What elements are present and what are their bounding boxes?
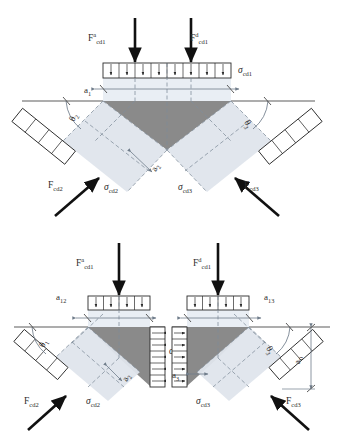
label-sigma-cd3-br: σcd3 bbox=[196, 396, 210, 408]
bottom-left-diagram: Facd1 a12 θ1 σcd0 a2 Fcd2 σcd2 bbox=[14, 243, 183, 430]
label-sigma-cd3: σcd3 bbox=[178, 182, 192, 194]
top-diagram: Facd1 Fdcd1 σcd1 a1 θ2 θ3 a2 Fcd2 Fcd3 σ… bbox=[12, 18, 322, 216]
label-force-diag-br: Fcd3 bbox=[286, 396, 301, 408]
stress-bar-interface-bl bbox=[150, 327, 165, 387]
label-force-cd3: Fcd3 bbox=[244, 180, 259, 192]
label-force-left-top: Facd1 bbox=[88, 31, 106, 45]
bottom-right-diagram: Fdcd1 a13 θ3 a0 a3 Fcd3 σcd3 bbox=[172, 243, 330, 430]
label-sigma-cd2: σcd2 bbox=[104, 182, 118, 194]
label-sigma-cd2-bl: σcd2 bbox=[86, 396, 100, 408]
stress-bar-right bbox=[259, 108, 323, 164]
angle-arc-theta3-br bbox=[276, 327, 290, 354]
label-force-right-top: Fdcd1 bbox=[190, 31, 208, 45]
label-sigma-cd1: σcd1 bbox=[238, 65, 252, 77]
label-a13: a13 bbox=[264, 292, 274, 304]
diagram-svg: Facd1 Fdcd1 σcd1 a1 θ2 θ3 a2 Fcd2 Fcd3 σ… bbox=[0, 0, 337, 435]
stress-bar-left bbox=[12, 108, 76, 164]
figure-canvas: Facd1 Fdcd1 σcd1 a1 θ2 θ3 a2 Fcd2 Fcd3 σ… bbox=[0, 0, 337, 435]
label-force-top-bl: Facd1 bbox=[76, 256, 94, 270]
label-a12: a12 bbox=[56, 292, 66, 304]
label-force-cd2: Fcd2 bbox=[48, 180, 63, 192]
label-force-top-br: Fdcd1 bbox=[193, 256, 211, 270]
label-a1: a1 bbox=[84, 85, 91, 97]
label-force-diag-bl: Fcd2 bbox=[24, 396, 39, 408]
